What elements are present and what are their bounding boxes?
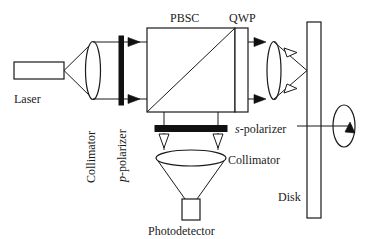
s-polarizer-bar (155, 126, 227, 132)
photodetector-box (182, 199, 200, 220)
p-polarizer-bar (119, 36, 124, 105)
signal-arrow-right (213, 134, 223, 148)
diagram-canvas: Laser Collimator p-polarizer PBSC QWP s-… (0, 0, 367, 239)
p-polarizer-rest-text: -polarizer (115, 129, 129, 176)
qwp-label: QWP (229, 11, 256, 25)
disk-label: Disk (278, 190, 301, 204)
laser-box (14, 62, 64, 79)
objective-lens (267, 42, 281, 100)
disk-rotation-arrow (345, 122, 355, 133)
signal-arrow-left (159, 134, 169, 148)
p-polarizer-label: p-polarizer (115, 129, 129, 183)
s-polarizer-label: s-polarizer (235, 122, 286, 136)
collimator-bottom-label: Collimator (228, 153, 280, 167)
reflected-beam-arrow-upper (284, 48, 297, 57)
disk-rectangle (307, 22, 321, 218)
qwp-exit-rays (248, 42, 262, 99)
beam-arrow-upper-in (128, 38, 140, 47)
photodetector-label: Photodetector (148, 224, 215, 238)
optical-system-diagram: Laser Collimator p-polarizer PBSC QWP s-… (0, 0, 367, 239)
beam-arrow-lower-in (128, 95, 140, 104)
reflected-beam-arrow-lower (284, 84, 297, 93)
collimator-lens-left (86, 42, 101, 100)
qwp-plate (235, 28, 248, 112)
photodetector-converging-rays (158, 161, 224, 199)
p-polarizer-italic-char: p (115, 176, 129, 183)
s-polarizer-rest-text: -polarizer (240, 122, 287, 136)
beam-arrow-lower-out (254, 95, 266, 104)
laser-label: Laser (14, 92, 41, 106)
svg-text:p-polarizer: p-polarizer (115, 129, 129, 183)
pbsc-label: PBSC (170, 11, 199, 25)
beam-arrow-upper-out (254, 38, 266, 47)
collimator-lens-bottom (156, 150, 226, 166)
collimator-left-label: Collimator (84, 131, 98, 183)
